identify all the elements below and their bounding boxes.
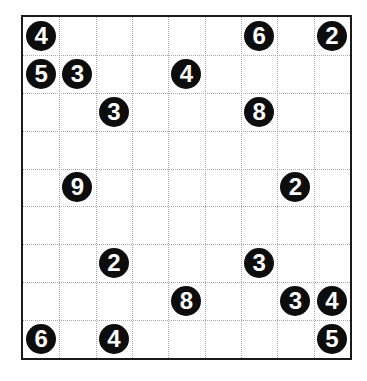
grid-cell[interactable] [205,282,241,320]
number-clue-circle: 6 [244,21,274,51]
grid-cell[interactable] [205,244,241,282]
grid-cell[interactable]: 4 [314,282,350,320]
grid-cell[interactable] [205,206,241,244]
grid-cell[interactable] [132,93,168,131]
grid-cell[interactable] [96,282,132,320]
number-clue-circle: 5 [317,324,347,354]
grid-cell[interactable] [205,55,241,93]
grid-cell[interactable] [132,244,168,282]
grid-cell[interactable] [132,320,168,358]
grid-cell[interactable] [59,244,95,282]
number-clue-circle: 9 [62,172,92,202]
number-clue-circle: 8 [244,97,274,127]
grid-cell[interactable] [23,206,59,244]
grid-cell[interactable] [241,282,277,320]
grid-cell[interactable] [277,131,313,169]
grid-cell[interactable] [168,17,204,55]
grid-cell[interactable] [23,131,59,169]
grid-cell[interactable] [168,169,204,207]
grid-cell[interactable] [314,93,350,131]
number-clue-circle: 2 [317,21,347,51]
number-clue-circle: 3 [244,248,274,278]
number-clue-circle: 5 [26,59,56,89]
grid-cell[interactable] [132,55,168,93]
grid-cell[interactable] [96,169,132,207]
grid-cell[interactable] [205,169,241,207]
grid-cell[interactable] [96,55,132,93]
number-clue-circle: 3 [99,97,129,127]
grid-cell[interactable] [314,244,350,282]
grid-cell[interactable]: 5 [314,320,350,358]
grid-cell[interactable] [314,206,350,244]
grid-cell[interactable]: 3 [59,55,95,93]
grid-cell[interactable] [205,93,241,131]
number-clue-circle: 4 [26,21,56,51]
grid-cell[interactable] [23,282,59,320]
grid-cell[interactable] [132,282,168,320]
grid-cell[interactable] [314,55,350,93]
number-clue-circle: 3 [62,59,92,89]
grid-cell[interactable]: 8 [241,93,277,131]
grid-cell[interactable]: 8 [168,282,204,320]
grid-cell[interactable] [23,93,59,131]
grid-cell[interactable]: 3 [96,93,132,131]
grid-cell[interactable] [205,17,241,55]
grid-cell[interactable] [59,131,95,169]
number-clue-circle: 3 [280,286,310,316]
number-clue-circle: 2 [280,172,310,202]
puzzle-grid[interactable]: 462534389223834645 [21,15,352,360]
grid-cell[interactable] [241,169,277,207]
grid-cell[interactable]: 3 [241,244,277,282]
grid-cell[interactable]: 9 [59,169,95,207]
grid-cell[interactable] [96,17,132,55]
grid-cell[interactable]: 4 [23,17,59,55]
grid-cell[interactable] [277,55,313,93]
grid-cell[interactable] [132,131,168,169]
grid-cell[interactable] [314,131,350,169]
grid-cell[interactable] [132,169,168,207]
grid-cell[interactable] [59,93,95,131]
number-clue-circle: 4 [99,324,129,354]
grid-cell[interactable] [241,320,277,358]
number-clue-circle: 4 [317,286,347,316]
grid-cell[interactable]: 6 [23,320,59,358]
grid-cell[interactable] [277,320,313,358]
number-clue-circle: 4 [171,59,201,89]
grid-cell[interactable] [168,244,204,282]
grid-cell[interactable] [96,206,132,244]
grid-cell[interactable] [59,320,95,358]
grid-cell[interactable] [241,206,277,244]
grid-cell[interactable]: 4 [96,320,132,358]
grid-cell[interactable] [314,169,350,207]
grid-cell[interactable] [205,320,241,358]
number-clue-circle: 8 [171,286,201,316]
grid-cell[interactable] [277,244,313,282]
grid-cell[interactable] [241,55,277,93]
grid-cell[interactable] [59,206,95,244]
grid-cell[interactable]: 4 [168,55,204,93]
grid-cell[interactable] [168,206,204,244]
grid-cell[interactable] [59,282,95,320]
grid-cell[interactable]: 3 [277,282,313,320]
grid-cell[interactable]: 2 [314,17,350,55]
grid-cell[interactable]: 5 [23,55,59,93]
grid-cell[interactable]: 2 [277,169,313,207]
grid-cell[interactable] [132,206,168,244]
grid-cell[interactable]: 2 [96,244,132,282]
grid-cell[interactable] [132,17,168,55]
number-clue-circle: 2 [99,248,129,278]
grid-cell[interactable] [168,320,204,358]
number-clue-circle: 6 [26,324,56,354]
grid-cell[interactable] [96,131,132,169]
grid-cell[interactable] [168,131,204,169]
grid-cell[interactable] [23,169,59,207]
grid-cell[interactable]: 6 [241,17,277,55]
grid-cell[interactable] [277,93,313,131]
grid-cell[interactable] [277,17,313,55]
grid-cell[interactable] [241,131,277,169]
grid-cell[interactable] [59,17,95,55]
grid-cell[interactable] [205,131,241,169]
grid-cell[interactable] [277,206,313,244]
grid-cell[interactable] [168,93,204,131]
grid-cell[interactable] [23,244,59,282]
